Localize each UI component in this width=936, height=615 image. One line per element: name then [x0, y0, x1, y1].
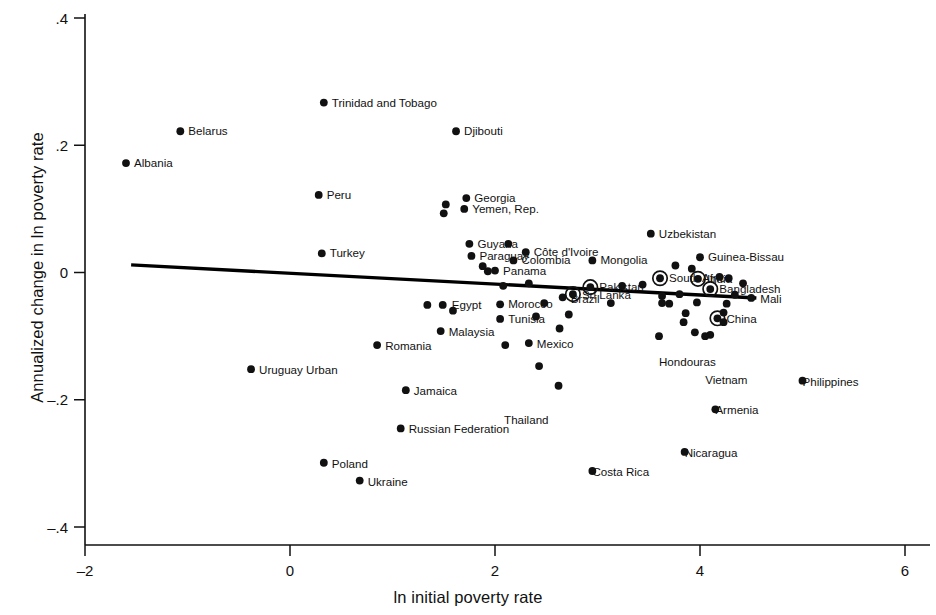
- data-point[interactable]: [565, 311, 573, 319]
- data-point[interactable]: [723, 300, 731, 308]
- data-point[interactable]: [535, 362, 543, 370]
- data-point[interactable]: [247, 365, 255, 373]
- data-point[interactable]: [680, 318, 688, 326]
- y-tick-label: –.4: [47, 519, 68, 536]
- data-point[interactable]: [555, 382, 563, 390]
- data-point[interactable]: [658, 292, 666, 300]
- point-label: Thailand: [504, 413, 548, 426]
- data-point[interactable]: [559, 293, 567, 301]
- data-point[interactable]: [701, 332, 709, 340]
- data-point[interactable]: [356, 477, 364, 485]
- data-point[interactable]: [373, 341, 381, 349]
- point-label: Romania: [385, 339, 432, 352]
- data-point[interactable]: [525, 339, 533, 347]
- point-label: Djibouti: [464, 124, 503, 137]
- data-point[interactable]: [556, 325, 564, 333]
- data-point[interactable]: [658, 299, 666, 307]
- data-point[interactable]: [655, 332, 663, 340]
- data-point[interactable]: [176, 127, 184, 135]
- data-point[interactable]: [320, 99, 328, 107]
- data-point[interactable]: [747, 294, 755, 302]
- point-label: Costa Rica: [592, 465, 649, 478]
- point-label: Hondouras: [659, 355, 716, 368]
- point-label: Yemen, Rep.: [472, 202, 539, 215]
- data-point[interactable]: [315, 191, 323, 199]
- data-point[interactable]: [468, 252, 476, 260]
- data-point[interactable]: [437, 327, 445, 335]
- point-label: Ukraine: [368, 475, 408, 488]
- point-label: Philippines: [803, 375, 859, 388]
- point-label: Uzbekistan: [659, 227, 716, 240]
- data-point[interactable]: [714, 314, 722, 322]
- data-point[interactable]: [691, 328, 699, 336]
- point-label: Mali: [760, 292, 781, 305]
- data-point[interactable]: [665, 300, 673, 308]
- data-point[interactable]: [706, 285, 714, 293]
- data-point[interactable]: [656, 274, 664, 282]
- data-point[interactable]: [423, 301, 431, 309]
- data-point[interactable]: [693, 299, 701, 307]
- x-tick-label: –2: [77, 562, 94, 579]
- data-point[interactable]: [501, 341, 509, 349]
- point-label: Egypt: [452, 298, 482, 311]
- point-label: Mexico: [537, 337, 574, 350]
- y-tick-group: .4.20–.2–.4: [47, 10, 85, 536]
- point-labels-group: AlbaniaBelarusTrinidad and TobagoDjibout…: [134, 96, 859, 488]
- data-point[interactable]: [676, 290, 684, 298]
- data-point[interactable]: [320, 459, 328, 467]
- data-point[interactable]: [465, 240, 473, 248]
- x-tick-label: 6: [901, 562, 909, 579]
- x-tick-label: 0: [286, 562, 294, 579]
- y-tick-label: .4: [55, 10, 68, 27]
- scatter-plot-figure: Annualized change in ln poverty rate ln …: [0, 0, 936, 615]
- point-label: Albania: [134, 156, 173, 169]
- point-label: Nicaragua: [685, 446, 738, 459]
- point-label: Mongolia: [600, 253, 648, 266]
- data-point[interactable]: [460, 205, 468, 213]
- point-label: Vietnam: [705, 373, 747, 386]
- y-tick-label: .2: [55, 137, 68, 154]
- y-tick-label: –.2: [47, 391, 68, 408]
- point-label: Tunisia: [508, 312, 545, 325]
- data-point[interactable]: [499, 282, 507, 290]
- point-label: Peru: [327, 188, 352, 201]
- data-point[interactable]: [440, 209, 448, 217]
- point-label: Brazil: [571, 292, 600, 305]
- data-point[interactable]: [647, 230, 655, 238]
- data-point[interactable]: [525, 279, 533, 287]
- point-label: Turkey: [330, 246, 365, 259]
- data-point[interactable]: [491, 267, 499, 275]
- point-label: Uruguay Urban: [259, 363, 338, 376]
- data-point[interactable]: [397, 424, 405, 432]
- data-point[interactable]: [462, 194, 470, 202]
- data-point[interactable]: [318, 250, 326, 258]
- point-label: Colombia: [521, 253, 571, 266]
- point-label: China: [726, 312, 757, 325]
- x-tick-label: 2: [491, 562, 499, 579]
- y-tick-label: 0: [60, 264, 68, 281]
- data-point[interactable]: [402, 386, 410, 394]
- point-label: Belarus: [188, 124, 228, 137]
- plot-canvas: .4.20–.2–.4 –20246 AlbaniaBelarusTrinida…: [0, 0, 936, 615]
- point-label: Poland: [332, 457, 368, 470]
- point-label: Malaysia: [449, 325, 495, 338]
- data-point[interactable]: [439, 301, 447, 309]
- data-point[interactable]: [672, 262, 680, 270]
- data-point[interactable]: [484, 267, 492, 275]
- data-point[interactable]: [122, 159, 130, 167]
- point-label: Guyana: [477, 237, 518, 250]
- x-tick-label: 4: [696, 562, 704, 579]
- point-label: Trinidad and Tobago: [332, 96, 437, 109]
- data-point[interactable]: [496, 315, 504, 323]
- point-label: Guinea-Bissau: [708, 250, 784, 263]
- axes-group: [85, 14, 930, 545]
- data-point[interactable]: [496, 300, 504, 308]
- x-tick-group: –20246: [77, 545, 910, 579]
- data-point[interactable]: [696, 253, 704, 261]
- data-point[interactable]: [442, 201, 450, 209]
- data-point[interactable]: [452, 127, 460, 135]
- point-label: Morocco: [508, 297, 552, 310]
- point-label: Armenia: [715, 403, 759, 416]
- data-point[interactable]: [682, 309, 690, 317]
- point-label: Russian Federation: [409, 422, 510, 435]
